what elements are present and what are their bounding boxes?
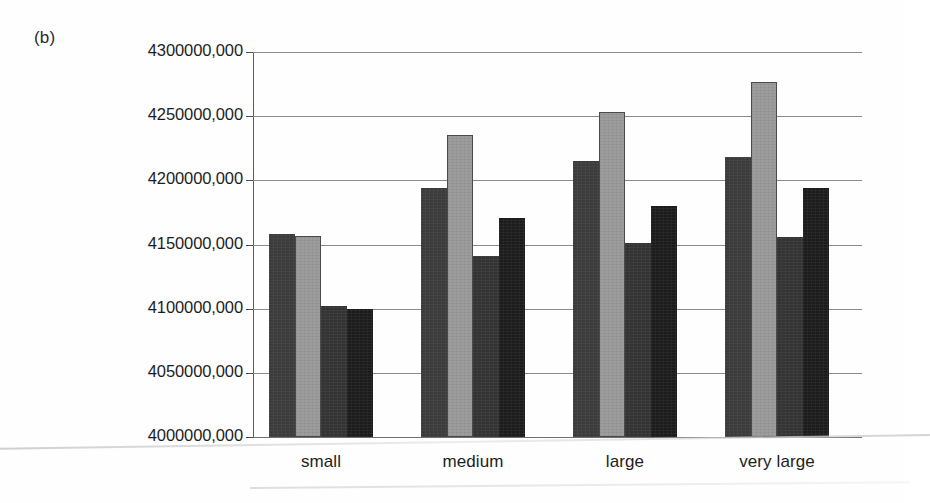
scan-artifact-line-secondary — [250, 481, 910, 489]
bar-small-series-1 — [269, 234, 295, 437]
x-axis-label-small: small — [241, 452, 401, 472]
y-axis-tick-label: 4250000,000 — [0, 105, 243, 124]
bar-large-series-4 — [651, 206, 677, 437]
y-axis-tick-mark — [246, 52, 253, 53]
y-axis-tick-label: 4050000,000 — [0, 362, 243, 381]
x-axis-label-medium: medium — [393, 452, 553, 472]
plot-area — [253, 52, 862, 437]
bar-very-large-series-4 — [803, 188, 829, 437]
bar-very-large-series-1 — [725, 157, 751, 437]
bar-medium-series-2 — [447, 135, 473, 437]
bar-small-series-3 — [321, 306, 347, 437]
bar-medium-series-3 — [473, 256, 499, 437]
y-axis-tick-label: 4300000,000 — [0, 41, 243, 60]
y-axis-tick-label: 4200000,000 — [0, 169, 243, 188]
x-axis-label-very-large: very large — [697, 452, 857, 472]
gridline — [253, 437, 862, 438]
bar-medium-series-1 — [421, 188, 447, 437]
y-axis-tick-label: 4150000,000 — [0, 234, 243, 253]
bar-large-series-2 — [599, 112, 625, 437]
y-axis-tick-mark — [246, 373, 253, 374]
y-axis-tick-mark — [246, 116, 253, 117]
y-axis-tick-mark — [246, 437, 253, 438]
y-axis-tick-mark — [246, 245, 253, 246]
gridline — [253, 52, 862, 53]
y-axis-labels: 4300000,0004250000,0004200000,0004150000… — [0, 0, 243, 503]
bar-small-series-2 — [295, 236, 321, 437]
bar-very-large-series-2 — [751, 82, 777, 437]
y-axis-tick-label: 4000000,000 — [0, 426, 243, 445]
bar-small-series-4 — [347, 309, 373, 437]
y-axis-tick-mark — [246, 309, 253, 310]
y-axis-tick-label: 4100000,000 — [0, 298, 243, 317]
bar-medium-series-4 — [499, 218, 525, 437]
y-axis-tick-mark — [246, 180, 253, 181]
bar-very-large-series-3 — [777, 237, 803, 437]
bar-large-series-1 — [573, 161, 599, 437]
x-axis-label-large: large — [545, 452, 705, 472]
bar-large-series-3 — [625, 243, 651, 437]
